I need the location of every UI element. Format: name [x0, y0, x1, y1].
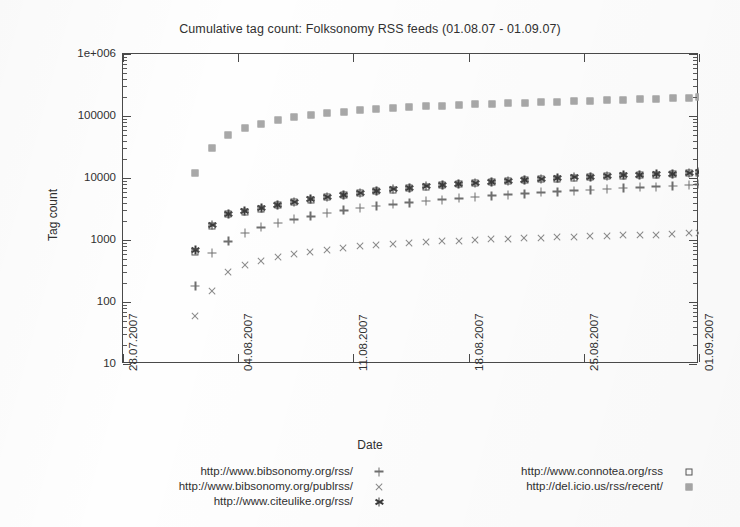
y-tick-mark — [123, 116, 131, 117]
y-minor-tick-mark — [123, 221, 127, 222]
legend-entry[interactable]: http://del.icio.us/rss/recent/ — [460, 479, 705, 494]
marker-filled-square — [570, 98, 577, 105]
y-minor-tick-mark — [693, 122, 697, 123]
x-tick-label: 28.07.2007 — [127, 313, 139, 371]
y-minor-tick-mark — [123, 305, 127, 306]
y-minor-tick-mark — [123, 210, 127, 211]
y-minor-tick-mark — [693, 305, 697, 306]
x-tick-mark — [353, 54, 354, 62]
legend-entry[interactable]: http://www.connotea.org/rss — [460, 464, 705, 479]
y-minor-tick-mark — [693, 308, 697, 309]
y-tick-mark — [123, 178, 131, 179]
y-minor-tick-mark — [693, 159, 697, 160]
marker-open-square — [686, 468, 693, 475]
y-minor-tick-mark — [123, 188, 127, 189]
legend: http://www.bibsonomy.org/rss/http://www.… — [0, 464, 740, 522]
chart-title: Cumulative tag count: Folksonomy RSS fee… — [0, 22, 740, 36]
y-minor-tick-mark — [693, 181, 697, 182]
y-tick-mark — [689, 240, 697, 241]
marker-filled-square — [603, 97, 610, 104]
x-axis-title: Date — [0, 438, 740, 452]
x-tick-label: 01.09.2007 — [703, 313, 715, 371]
x-tick-label: 18.08.2007 — [473, 313, 485, 371]
y-minor-tick-mark — [123, 250, 127, 251]
y-minor-tick-mark — [123, 254, 127, 255]
marker-filled-square — [587, 97, 594, 104]
y-minor-tick-mark — [693, 221, 697, 222]
x-tick-mark — [353, 354, 354, 362]
y-minor-tick-mark — [123, 97, 127, 98]
y-tick-mark — [123, 302, 131, 303]
x-axis-tick-labels: 28.07.200704.08.200711.08.200718.08.2007… — [122, 363, 698, 443]
y-minor-tick-mark — [123, 135, 127, 136]
y-minor-tick-mark — [123, 283, 127, 284]
y-minor-tick-mark — [693, 210, 697, 211]
x-tick-mark — [238, 54, 239, 62]
legend-entry-label: http://www.connotea.org/rss — [521, 464, 663, 479]
y-minor-tick-mark — [693, 68, 697, 69]
marker-filled-square — [225, 131, 232, 138]
y-minor-tick-mark — [123, 64, 127, 65]
y-minor-tick-mark — [693, 119, 697, 120]
y-minor-tick-mark — [693, 316, 697, 317]
y-minor-tick-mark — [123, 312, 127, 313]
legend-entry[interactable]: http://www.citeulike.org/rss/ — [150, 494, 395, 509]
marker-filled-square — [340, 108, 347, 115]
marker-filled-square — [291, 114, 298, 121]
y-tick-label: 100000 — [78, 109, 116, 121]
y-minor-tick-mark — [123, 148, 127, 149]
legend-entry-marker — [681, 479, 697, 494]
y-tick-mark — [689, 116, 697, 117]
legend-entry[interactable]: http://www.bibsonomy.org/rss/ — [150, 464, 395, 479]
marker-filled-square — [686, 95, 693, 102]
y-minor-tick-mark — [123, 126, 127, 127]
y-minor-tick-mark — [693, 254, 697, 255]
marker-filled-square — [241, 125, 248, 132]
y-minor-tick-mark — [693, 203, 697, 204]
marker-filled-square — [406, 104, 413, 111]
legend-entry-marker — [371, 479, 387, 494]
marker-filled-square — [636, 96, 643, 103]
x-tick-label: 11.08.2007 — [357, 314, 369, 371]
y-minor-tick-mark — [693, 265, 697, 266]
marker-filled-square — [653, 95, 660, 102]
y-minor-tick-mark — [123, 192, 127, 193]
marker-cross — [375, 482, 384, 491]
marker-filled-square — [686, 483, 693, 490]
x-tick-label: 04.08.2007 — [242, 313, 254, 371]
x-tick-label: 25.08.2007 — [588, 313, 600, 371]
marker-filled-square — [192, 170, 199, 177]
y-tick-mark — [123, 240, 131, 241]
y-minor-tick-mark — [693, 79, 697, 80]
y-minor-tick-mark — [123, 79, 127, 80]
y-minor-tick-mark — [123, 181, 127, 182]
y-minor-tick-mark — [123, 265, 127, 266]
marker-plus — [375, 467, 384, 476]
y-minor-tick-mark — [123, 243, 127, 244]
y-minor-tick-mark — [693, 148, 697, 149]
y-tick-label: 10 — [103, 357, 116, 369]
y-minor-tick-mark — [693, 259, 697, 260]
y-minor-tick-mark — [123, 73, 127, 74]
marker-filled-square — [488, 100, 495, 107]
x-tick-mark — [238, 354, 239, 362]
y-minor-tick-mark — [123, 119, 127, 120]
y-tick-mark — [689, 302, 697, 303]
legend-entry-label: http://www.bibsonomy.org/rss/ — [200, 464, 353, 479]
legend-column-right: http://www.connotea.org/rsshttp://del.ic… — [460, 464, 705, 494]
legend-entry[interactable]: http://www.bibsonomy.org/publrss/ — [150, 479, 395, 494]
y-minor-tick-mark — [123, 68, 127, 69]
marker-filled-square — [373, 106, 380, 113]
y-tick-label: 100 — [97, 295, 116, 307]
legend-entry-label: http://del.icio.us/rss/recent/ — [526, 479, 663, 494]
y-minor-tick-mark — [693, 250, 697, 251]
marker-filled-square — [554, 98, 561, 105]
legend-entry-marker — [371, 464, 387, 479]
marker-filled-square — [274, 117, 281, 124]
marker-filled-square — [439, 102, 446, 109]
y-minor-tick-mark — [693, 327, 697, 328]
y-minor-tick-mark — [123, 122, 127, 123]
y-minor-tick-mark — [693, 246, 697, 247]
y-minor-tick-mark — [693, 312, 697, 313]
marker-filled-square — [521, 99, 528, 106]
